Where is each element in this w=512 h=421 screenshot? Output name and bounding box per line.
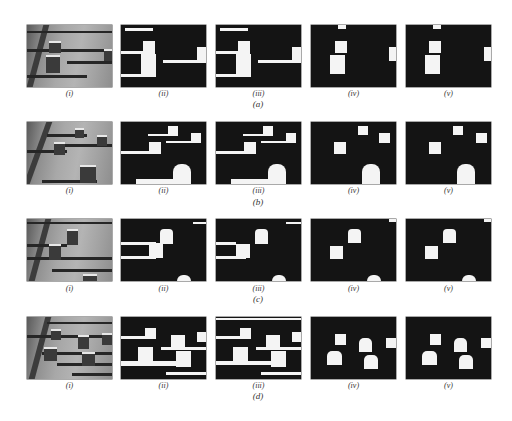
label-d-iv: (iv): [311, 381, 396, 390]
frame-d-ii-mask: [121, 317, 206, 379]
frame-d-i-original: [27, 317, 112, 379]
caption-b: (b): [238, 197, 278, 207]
frame-b-ii-mask: [121, 122, 206, 184]
caption-d: (d): [238, 391, 278, 401]
label-c-iii: (iii): [216, 284, 301, 293]
label-a-iv: (iv): [311, 89, 396, 98]
label-d-iii: (iii): [216, 381, 301, 390]
frame-d-iv-mask: [311, 317, 396, 379]
label-c-v: (v): [406, 284, 491, 293]
frame-b-iv-mask: [311, 122, 396, 184]
label-d-ii: (ii): [121, 381, 206, 390]
label-d-v: (v): [406, 381, 491, 390]
frame-b-iii-mask: [216, 122, 301, 184]
frame-a-i-original: [27, 25, 112, 87]
label-b-i: (i): [27, 186, 112, 195]
frame-a-v-mask: [406, 25, 491, 87]
frame-c-iv-mask: [311, 219, 396, 281]
frame-a-ii-mask: [121, 25, 206, 87]
caption-a: (a): [238, 99, 278, 109]
label-c-ii: (ii): [121, 284, 206, 293]
caption-c: (c): [238, 294, 278, 304]
frame-b-i-original: [27, 122, 112, 184]
label-a-i: (i): [27, 89, 112, 98]
frame-a-iv-mask: [311, 25, 396, 87]
label-a-ii: (ii): [121, 89, 206, 98]
label-c-iv: (iv): [311, 284, 396, 293]
label-b-iii: (iii): [216, 186, 301, 195]
frame-c-v-mask: [406, 219, 491, 281]
label-b-iv: (iv): [311, 186, 396, 195]
label-b-v: (v): [406, 186, 491, 195]
frame-a-iii-mask: [216, 25, 301, 87]
frame-c-iii-mask: [216, 219, 301, 281]
label-a-iii: (iii): [216, 89, 301, 98]
label-b-ii: (ii): [121, 186, 206, 195]
frame-d-iii-mask: [216, 317, 301, 379]
label-a-v: (v): [406, 89, 491, 98]
frame-d-v-mask: [406, 317, 491, 379]
label-c-i: (i): [27, 284, 112, 293]
frame-c-ii-mask: [121, 219, 206, 281]
frame-c-i-original: [27, 219, 112, 281]
label-d-i: (i): [27, 381, 112, 390]
frame-b-v-mask: [406, 122, 491, 184]
